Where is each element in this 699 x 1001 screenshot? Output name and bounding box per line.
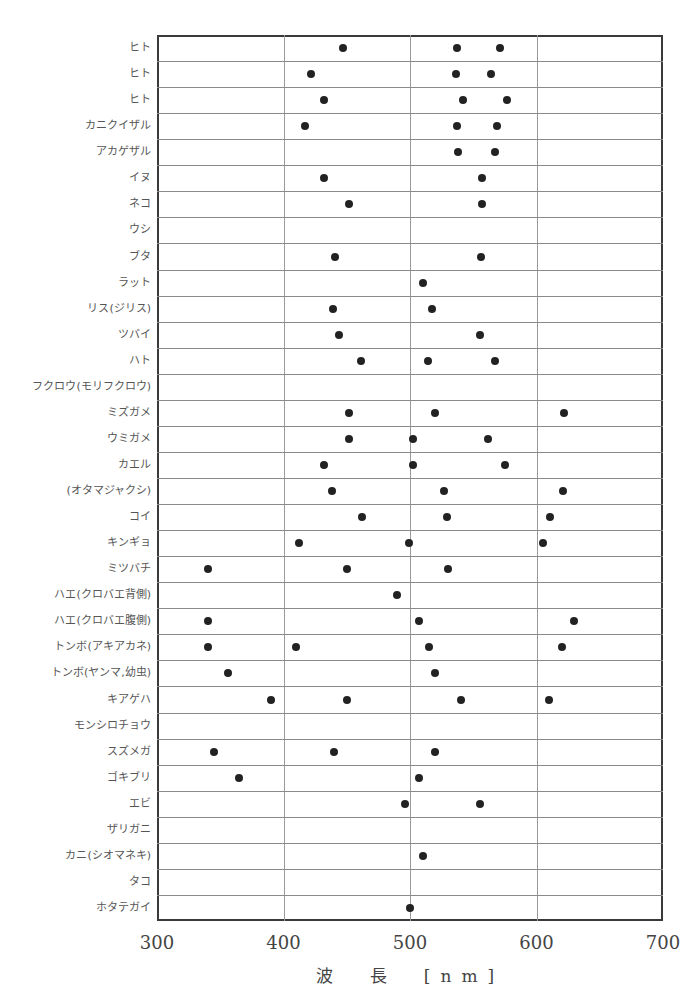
data-point (501, 461, 509, 469)
row-divider (157, 296, 663, 297)
row-divider (157, 843, 663, 844)
row-label: スズメガ (107, 745, 151, 759)
row-divider (157, 634, 663, 635)
row-label: コイ (129, 510, 151, 524)
row-divider (157, 87, 663, 88)
row-label: ミズガメ (107, 406, 151, 420)
data-point (545, 696, 553, 704)
data-point (443, 513, 451, 521)
data-point (409, 461, 417, 469)
row-label: キンギョ (107, 536, 151, 550)
row-label: イヌ (129, 171, 151, 185)
row-label: ヒト (129, 67, 151, 81)
row-label: (オタマジャクシ) (66, 484, 151, 498)
data-point (235, 774, 243, 782)
row-label: ハエ(クロバエ背側) (54, 588, 151, 602)
data-point (496, 44, 504, 52)
row-divider (157, 713, 663, 714)
data-point (539, 539, 547, 547)
row-divider (157, 660, 663, 661)
row-label: カニクイザル (85, 119, 151, 133)
row-divider (157, 895, 663, 896)
row-divider (157, 139, 663, 140)
data-point (415, 774, 423, 782)
row-divider (157, 400, 663, 401)
data-point (452, 70, 460, 78)
data-point (357, 357, 365, 365)
data-point (491, 357, 499, 365)
row-divider (157, 374, 663, 375)
wavelength-dot-chart: ヒトヒトヒトカニクイザルアカゲザルイヌネコウシブタラットリス(ジリス)ツバイハト… (0, 0, 699, 1001)
row-divider (157, 348, 663, 349)
row-label: タコ (129, 875, 151, 889)
row-label: エビ (129, 797, 151, 811)
data-point (457, 696, 465, 704)
data-point (431, 748, 439, 756)
row-label: ブタ (129, 250, 151, 264)
data-point (343, 696, 351, 704)
data-point (409, 435, 417, 443)
x-axis-title: 波 長 [nm] (316, 962, 504, 987)
row-divider (157, 556, 663, 557)
row-label: モンシロチョウ (74, 719, 151, 733)
row-label: トンボ(アキアカネ) (54, 640, 151, 654)
row-divider (157, 530, 663, 531)
x-tick-label: 600 (519, 932, 553, 953)
row-divider (157, 869, 663, 870)
data-point (401, 800, 409, 808)
data-point (331, 253, 339, 261)
row-label: ミツバチ (107, 562, 151, 576)
row-label: ウシ (129, 223, 151, 237)
row-divider (157, 165, 663, 166)
data-point (453, 122, 461, 130)
data-point (491, 148, 499, 156)
data-point (424, 357, 432, 365)
row-label: ヒト (129, 41, 151, 55)
data-point (428, 305, 436, 313)
data-point (210, 748, 218, 756)
row-label: ツバイ (118, 328, 151, 342)
x-tick-label: 500 (393, 932, 427, 953)
row-label: ハエ(クロバエ腹側) (54, 614, 151, 628)
data-point (476, 331, 484, 339)
row-label: ホタテガイ (96, 901, 151, 915)
data-point (295, 539, 303, 547)
row-label: ハト (129, 354, 151, 368)
row-label: アカゲザル (96, 145, 151, 159)
row-label: カエル (118, 458, 151, 472)
row-divider (157, 217, 663, 218)
data-point (453, 44, 461, 52)
row-label: カニ(シオマネキ) (65, 849, 151, 863)
data-point (204, 617, 212, 625)
data-point (328, 487, 336, 495)
row-label: トンボ(ヤンマ,幼虫) (51, 666, 151, 680)
data-point (419, 279, 427, 287)
row-label: フクロウ(モリフクロウ) (32, 380, 151, 394)
data-point (204, 565, 212, 573)
data-point (329, 305, 337, 313)
row-divider (157, 426, 663, 427)
x-tick-label: 300 (140, 932, 174, 953)
row-divider (157, 452, 663, 453)
data-point (406, 904, 414, 912)
row-divider (157, 504, 663, 505)
row-divider (157, 113, 663, 114)
row-divider (157, 608, 663, 609)
data-point (330, 748, 338, 756)
x-tick-label: 700 (646, 932, 680, 953)
row-label: ウミガメ (107, 432, 151, 446)
row-divider (157, 817, 663, 818)
data-point (477, 253, 485, 261)
row-divider (157, 765, 663, 766)
row-divider (157, 739, 663, 740)
data-point (358, 513, 366, 521)
data-point (339, 44, 347, 52)
row-divider (157, 478, 663, 479)
row-divider (157, 270, 663, 271)
row-label: リス(ジリス) (87, 302, 151, 316)
row-divider (157, 791, 663, 792)
data-point (267, 696, 275, 704)
row-label: ゴキブリ (107, 771, 151, 785)
row-label: ヒト (129, 93, 151, 107)
row-label: ラット (118, 276, 151, 290)
